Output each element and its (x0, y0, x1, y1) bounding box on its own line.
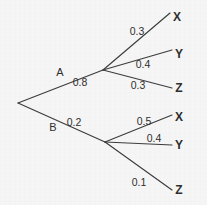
leaf-label-b-z: Z (175, 183, 182, 197)
leaf-label-a-x: X (173, 10, 181, 24)
prob-label-b-y: 0.4 (147, 132, 162, 144)
branch-group-a: A 0.8 (18, 66, 103, 103)
branch-group-b-x: 0.5 X (105, 110, 183, 142)
prob-label-b-z: 0.1 (132, 176, 147, 188)
node-label-b: B (49, 121, 56, 133)
branch-group-a-y: 0.4 Y (103, 47, 183, 70)
node-label-a: A (56, 66, 64, 78)
branch-group-b-y: 0.4 Y (105, 132, 183, 152)
leaf-label-a-z: Z (175, 81, 182, 95)
probability-tree-diagram: A 0.8 0.3 X 0.4 Y 0.3 Z B 0.2 0.5 X 0.4 … (0, 0, 207, 205)
edge-b-to-y (105, 142, 172, 145)
prob-label-a-y: 0.4 (136, 58, 151, 70)
leaf-label-a-y: Y (175, 47, 183, 61)
prob-label-b-x: 0.5 (137, 115, 152, 127)
prob-label-a-z: 0.3 (131, 79, 146, 91)
prob-label-a-x: 0.3 (130, 25, 145, 37)
leaf-label-b-x: X (175, 110, 183, 124)
branch-group-a-z: 0.3 Z (103, 70, 183, 95)
edge-root-to-b (18, 103, 105, 142)
prob-label-b: 0.2 (67, 116, 82, 128)
leaf-label-b-y: Y (175, 138, 183, 152)
branch-group-b-z: 0.1 Z (105, 142, 183, 197)
branch-group-b: B 0.2 (18, 103, 105, 142)
prob-label-a: 0.8 (73, 76, 88, 88)
